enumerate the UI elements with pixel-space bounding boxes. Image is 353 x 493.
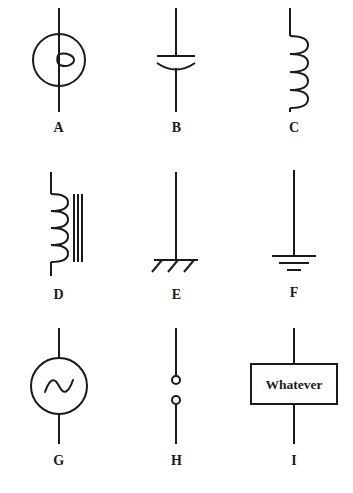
symbol-cell-d: D — [0, 150, 118, 310]
earth-ground-symbol — [244, 168, 344, 276]
generic-block-symbol: Whatever — [239, 326, 349, 446]
polarized-capacitor-symbol — [126, 6, 226, 114]
generic-block-label: Whatever — [266, 377, 323, 392]
symbol-label-i: I — [291, 454, 297, 468]
inductor-coil-symbol — [244, 6, 344, 114]
open-terminals-symbol — [126, 326, 226, 446]
symbol-label-h: H — [171, 454, 182, 468]
symbol-label-b: B — [172, 121, 182, 135]
symbol-cell-f: F — [235, 150, 353, 310]
ac-source-symbol — [9, 326, 109, 446]
symbol-label-d: D — [54, 288, 64, 302]
symbol-cell-h: H — [118, 310, 236, 493]
chassis-ground-symbol — [126, 170, 226, 278]
symbol-cell-c: C — [235, 0, 353, 150]
symbol-label-g: G — [53, 454, 64, 468]
symbol-sheet: A B C — [0, 0, 353, 493]
symbol-cell-g: G — [0, 310, 118, 493]
symbol-label-a: A — [54, 121, 64, 135]
symbol-label-e: E — [172, 288, 182, 302]
iron-core-inductor-symbol — [9, 170, 109, 278]
symbol-cell-b: B — [118, 0, 236, 150]
symbol-cell-i: Whatever I — [235, 310, 353, 493]
symbol-label-f: F — [290, 286, 299, 300]
symbol-cell-a: A — [0, 0, 118, 150]
symbol-cell-e: E — [118, 150, 236, 310]
lamp-circle-symbol — [9, 6, 109, 114]
symbol-label-c: C — [289, 121, 299, 135]
